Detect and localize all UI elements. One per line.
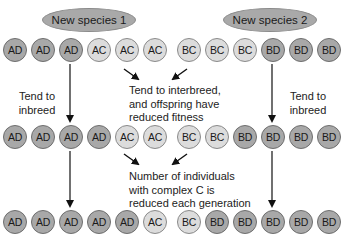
interbreed-line-2: and offspring have xyxy=(129,98,221,112)
individual-bd: BD xyxy=(289,38,313,62)
right-inbreed-line-1: Tend to xyxy=(288,90,328,104)
individual-bc: BC xyxy=(205,38,229,62)
individual-ad: AD xyxy=(3,38,27,62)
generation-row-3: ADADADADADACBCBDBDBDBDBD xyxy=(0,210,346,234)
individual-ad: AD xyxy=(31,125,55,149)
individual-bd: BD xyxy=(261,210,285,234)
diag-arrow-right-2 xyxy=(173,154,187,164)
individual-bc: BC xyxy=(177,38,201,62)
individual-bc: BC xyxy=(177,210,201,234)
reduction-line-3: reduced each generation xyxy=(129,197,251,211)
diag-arrow-left-2 xyxy=(124,154,138,164)
diag-arrow-left-1 xyxy=(124,69,138,79)
species-1-oval: New species 1 xyxy=(42,8,136,32)
individual-bd: BD xyxy=(233,210,257,234)
individual-bd: BD xyxy=(289,210,313,234)
individual-ad: AD xyxy=(3,125,27,149)
interbreed-label: Tend to interbreed, and offspring have r… xyxy=(129,84,221,125)
generation-row-1: ADADADACACACBCBCBCBDBDBD xyxy=(0,38,346,62)
individual-ad: AD xyxy=(59,210,83,234)
left-inbreed-line-2: inbreed xyxy=(17,104,57,118)
individual-bd: BD xyxy=(317,210,341,234)
individual-bd: BD xyxy=(261,38,285,62)
individual-ac: AC xyxy=(115,38,139,62)
individual-ac: AC xyxy=(143,125,167,149)
individual-bc: BC xyxy=(233,38,257,62)
individual-ad: AD xyxy=(31,210,55,234)
diag-arrow-right-1 xyxy=(173,69,187,79)
reduction-line-2: with complex C is xyxy=(129,184,251,198)
individual-ac: AC xyxy=(87,38,111,62)
interbreed-line-1: Tend to interbreed, xyxy=(129,84,221,98)
species-2-oval: New species 2 xyxy=(223,8,317,32)
individual-bd: BD xyxy=(317,125,341,149)
individual-ad: AD xyxy=(31,38,55,62)
individual-bd: BD xyxy=(317,38,341,62)
species-2-label: New species 2 xyxy=(233,14,308,26)
individual-bd: BD xyxy=(289,125,313,149)
right-inbreed-line-2: inbreed xyxy=(288,104,328,118)
left-inbreed-label: Tend to inbreed xyxy=(17,90,57,117)
individual-ad: AD xyxy=(87,210,111,234)
individual-ad: AD xyxy=(3,210,27,234)
individual-ad: AD xyxy=(115,210,139,234)
individual-bd: BD xyxy=(205,210,229,234)
individual-ad: AD xyxy=(59,38,83,62)
individual-ac: AC xyxy=(143,210,167,234)
generation-row-2: ADADADADACACBCBCBDBDBDBD xyxy=(0,125,346,149)
individual-ad: AD xyxy=(59,125,83,149)
individual-bc: BC xyxy=(205,125,229,149)
individual-ac: AC xyxy=(115,125,139,149)
individual-ad: AD xyxy=(87,125,111,149)
individual-ac: AC xyxy=(143,38,167,62)
reduction-line-1: Number of individuals xyxy=(129,170,251,184)
interbreed-line-3: reduced fitness xyxy=(129,111,221,125)
species-1-label: New species 1 xyxy=(52,14,127,26)
right-inbreed-label: Tend to inbreed xyxy=(288,90,328,117)
individual-bd: BD xyxy=(261,125,285,149)
individual-bc: BC xyxy=(177,125,201,149)
left-inbreed-line-1: Tend to xyxy=(17,90,57,104)
reduction-label: Number of individuals with complex C is … xyxy=(129,170,251,211)
individual-bd: BD xyxy=(233,125,257,149)
